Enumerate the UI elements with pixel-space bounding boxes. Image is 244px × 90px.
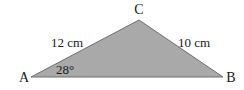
vertex-label-b: B (226, 70, 235, 85)
side-label-cb: 10 cm (178, 35, 210, 50)
side-label-ac: 12 cm (51, 35, 83, 50)
triangle-diagram: C A B 12 cm 10 cm 28° (0, 0, 244, 90)
triangle-figure: C A B 12 cm 10 cm 28° (0, 0, 244, 90)
vertex-label-c: C (134, 2, 143, 17)
angle-label-a: 28° (56, 62, 74, 77)
vertex-label-a: A (19, 70, 30, 85)
